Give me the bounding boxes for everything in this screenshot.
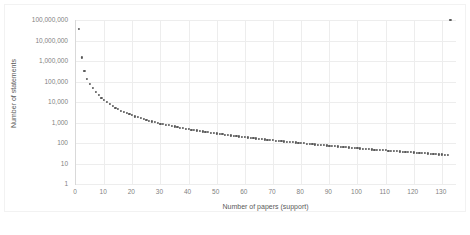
y-axis-title: Number of statements (10, 29, 17, 159)
data-point (446, 154, 448, 156)
x-axis-tick-labels: 0102030405060708090100110120130 (75, 189, 456, 203)
gridline-vertical (386, 20, 387, 184)
data-point (81, 56, 83, 58)
gridline-vertical (414, 20, 415, 184)
gridline-vertical (217, 20, 218, 184)
x-axis-title: Number of papers (support) (75, 203, 456, 210)
data-point (97, 94, 99, 96)
gridline-vertical (273, 20, 274, 184)
gridline-vertical (301, 20, 302, 184)
x-tick-label: 110 (379, 189, 389, 196)
data-point (92, 87, 94, 89)
x-tick-label: 20 (128, 189, 135, 196)
gridline-vertical (245, 20, 246, 184)
x-tick-label: 0 (73, 189, 77, 196)
x-tick-label: 70 (268, 189, 275, 196)
x-tick-label: 10 (100, 189, 107, 196)
y-tick-label: 10 (0, 160, 68, 167)
data-point (100, 96, 102, 98)
data-point (95, 91, 97, 93)
scatter-chart: 1101001,00010,000100,0001,000,00010,000,… (0, 0, 470, 235)
y-tick-label: 100,000,000 (0, 17, 68, 24)
x-tick-label: 80 (297, 189, 304, 196)
x-tick-label: 130 (435, 189, 446, 196)
x-tick-label: 30 (156, 189, 163, 196)
x-tick-label: 100 (351, 189, 362, 196)
gridline-vertical (132, 20, 133, 184)
x-tick-label: 50 (212, 189, 219, 196)
x-tick-label: 40 (184, 189, 191, 196)
gridline-vertical (357, 20, 358, 184)
data-point (83, 70, 85, 72)
gridline-horizontal (76, 184, 456, 185)
data-point (78, 28, 80, 30)
data-point (86, 77, 88, 79)
data-point (89, 83, 91, 85)
gridline-vertical (160, 20, 161, 184)
gridline-vertical (189, 20, 190, 184)
x-tick-label: 60 (240, 189, 247, 196)
plot-area (75, 20, 456, 185)
gridline-vertical (442, 20, 443, 184)
x-tick-label: 90 (325, 189, 332, 196)
gridline-vertical (329, 20, 330, 184)
y-tick-label: 1 (0, 181, 68, 188)
x-tick-label: 120 (407, 189, 418, 196)
